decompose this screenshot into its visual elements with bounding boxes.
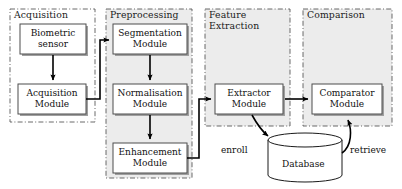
- module-box-acquisition-module: [18, 84, 88, 116]
- stage-label-feature-extraction: Feature Extraction: [209, 10, 259, 31]
- biometric-system-diagram: Acquisition Preprocessing Feature Extrac…: [0, 0, 402, 189]
- module-box-biometric-sensor: [20, 24, 88, 56]
- module-box-comparator-module: [312, 84, 384, 116]
- module-box-normalisation-module: [113, 84, 189, 116]
- module-box-extractor-module: [215, 84, 285, 116]
- stage-label-preprocessing: Preprocessing: [110, 10, 179, 21]
- diagram-canvas: [0, 0, 402, 189]
- database-label: Database: [282, 159, 325, 169]
- edge-label-enroll: enroll: [221, 145, 248, 155]
- module-box-segmentation-module: [113, 24, 189, 56]
- stage-label-acquisition: Acquisition: [14, 10, 68, 21]
- module-box-enhancement-module: [113, 143, 189, 175]
- stage-label-comparison: Comparison: [307, 10, 365, 21]
- edge-label-retrieve: retrieve: [350, 145, 386, 155]
- database-cylinder: [268, 133, 342, 182]
